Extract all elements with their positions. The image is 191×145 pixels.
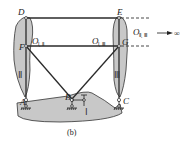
- infinity-arrow-head: [167, 31, 173, 35]
- label-B: B: [65, 92, 71, 102]
- link-GB: [72, 46, 119, 99]
- body-III: [113, 17, 127, 97]
- label-O13-sub: Ⅰ, Ⅲ: [98, 42, 105, 48]
- label-C: C: [123, 96, 130, 106]
- joint-E: [118, 17, 121, 20]
- label-body-III: Ⅲ: [114, 70, 120, 80]
- label-body-I: Ⅰ: [85, 107, 88, 117]
- label-E: E: [116, 7, 123, 17]
- label-D: D: [17, 7, 25, 17]
- joint-G: [118, 45, 121, 48]
- label-body-II: Ⅱ: [18, 70, 22, 80]
- label-O23-sub: Ⅱ, Ⅲ: [139, 33, 147, 39]
- figure-caption: (b): [67, 128, 77, 137]
- joint-D: [25, 17, 28, 20]
- joint-F: [25, 45, 28, 48]
- instant-center-diagram: D E F G A B C Ⅱ Ⅲ Ⅰ O Ⅰ, Ⅱ O Ⅰ, Ⅲ O Ⅱ, Ⅲ…: [0, 0, 191, 145]
- label-O12-sub: Ⅰ, Ⅱ: [38, 42, 44, 48]
- label-F: F: [18, 42, 25, 52]
- body-II: [14, 17, 33, 97]
- label-G: G: [122, 37, 129, 47]
- infinity-symbol: ∞: [174, 29, 180, 38]
- label-A: A: [19, 97, 26, 107]
